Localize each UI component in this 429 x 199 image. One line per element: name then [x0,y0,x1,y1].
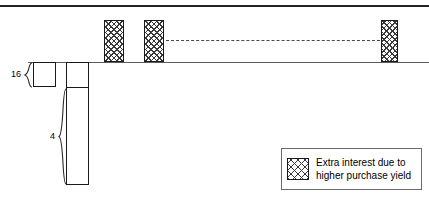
top-border-rule [0,5,429,7]
dimension-4-label: 4 [50,132,55,141]
legend-text: Extra interest due to higher purchase yi… [316,156,411,182]
tall-box-divider [66,87,89,88]
legend: Extra interest due to higher purchase yi… [281,148,422,190]
legend-line-2: higher purchase yield [316,169,411,182]
legend-swatch-crosshatch-icon [287,158,309,180]
dashed-continuation-line [166,40,380,41]
tall-outline-box [66,62,89,185]
short-outline-box [33,62,56,87]
legend-line-1: Extra interest due to [316,156,411,169]
dimension-16-label: 16 [11,70,21,79]
extra-interest-bar-1 [104,20,124,62]
brace-4-icon [58,88,67,185]
extra-interest-bar-2 [144,20,164,62]
brace-16-icon [24,62,33,88]
extra-interest-bar-3 [381,20,398,62]
diagram-canvas: 16 4 Extra interest due to higher purcha… [0,0,429,199]
